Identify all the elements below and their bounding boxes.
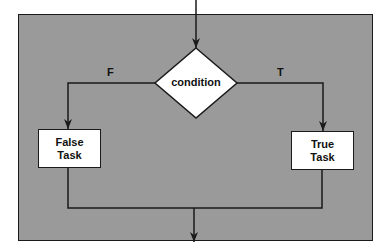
false-branch-label: F [107, 66, 114, 78]
merge-connector [68, 167, 322, 208]
flowchart-connectors [0, 0, 388, 250]
decision-label: condition [154, 76, 238, 88]
true-branch-connector [237, 83, 323, 131]
false-branch-connector [68, 83, 155, 129]
false-task-box: False Task [38, 129, 101, 168]
true-task-box: True Task [291, 131, 354, 170]
flowchart-canvas: condition F T False Task True Task [0, 0, 388, 250]
true-branch-label: T [277, 66, 284, 78]
